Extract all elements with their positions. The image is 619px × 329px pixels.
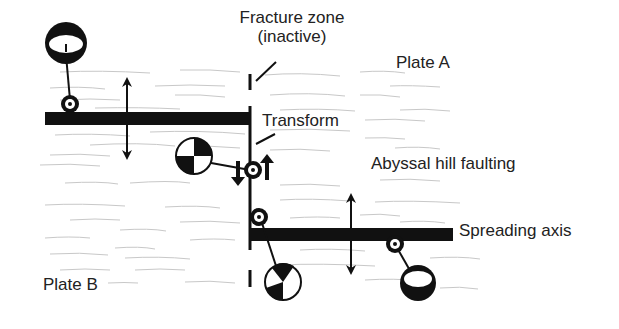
abyssal-hill-faulting-label: Abyssal hill faulting <box>371 155 516 174</box>
fracture-zone-label: Fracture zone (inactive) <box>222 9 362 46</box>
transform-label: Transform <box>262 112 339 131</box>
transform-pointer <box>256 134 275 144</box>
fracture-zone-pointer <box>256 62 276 81</box>
spreading-axis-label: Spreading axis <box>459 222 571 241</box>
focal-mechanism-lower-ridge <box>250 208 301 300</box>
plate-a-label: Plate A <box>396 54 450 73</box>
plate-b-label: Plate B <box>43 276 98 295</box>
focal-mechanism-normal-lower <box>386 235 436 301</box>
seafloor-texture <box>40 70 480 289</box>
upper-spreading-segment <box>45 112 250 125</box>
fracture-zone-label-line1: Fracture zone <box>222 9 362 28</box>
fracture-zone-label-line2: (inactive) <box>222 28 362 47</box>
